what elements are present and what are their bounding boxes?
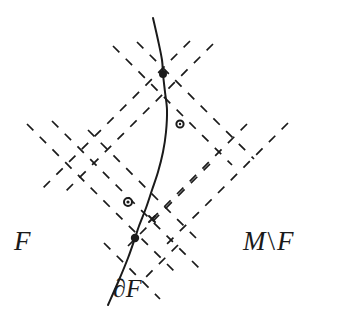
region-label-M: M bbox=[243, 226, 266, 256]
grid-line-e6 bbox=[140, 245, 178, 283]
vertex-on-curve-bottom bbox=[131, 234, 139, 242]
vertex-off-curve-left-center bbox=[126, 200, 129, 203]
point-marker-right-center bbox=[179, 123, 181, 125]
vertex-on-curve-top bbox=[159, 70, 167, 78]
grid-line-e1 bbox=[62, 44, 213, 195]
grid-line-d5 bbox=[88, 130, 196, 238]
grid-line-e5 bbox=[128, 164, 210, 246]
diagram-svg bbox=[0, 0, 342, 321]
grid-line-d3 bbox=[113, 46, 232, 165]
figure-canvas: F M\F ∂F bbox=[0, 0, 342, 321]
boundary-curve-group bbox=[108, 18, 167, 305]
region-label-m-minus-f: M\F bbox=[243, 228, 294, 255]
grid-line-d1 bbox=[27, 124, 178, 275]
dashed-lattice-group bbox=[27, 41, 288, 299]
set-minus-symbol: \ bbox=[266, 226, 278, 256]
vertex-marker-group bbox=[124, 70, 184, 242]
region-label-F: F bbox=[14, 228, 31, 255]
region-label-F-right: F bbox=[277, 226, 294, 256]
grid-line-d2 bbox=[52, 121, 203, 272]
boundary-curve bbox=[108, 18, 167, 305]
grid-line-d4 bbox=[137, 42, 254, 159]
boundary-label-partial-f: ∂F bbox=[113, 276, 142, 302]
